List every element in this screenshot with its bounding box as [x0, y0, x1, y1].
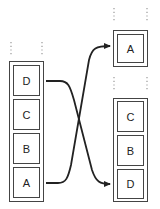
stack-reorder-diagram: D C B A A C: [0, 0, 160, 209]
left-stack-continuation-dots: [11, 42, 42, 55]
left-cell-c-label: C: [23, 109, 31, 121]
left-cell-a-label: A: [23, 177, 31, 189]
right-cell-a-label: A: [127, 43, 135, 55]
right-cell-c-label: C: [127, 111, 135, 123]
left-stack: D C B A: [10, 62, 44, 202]
right-cell-b: B: [118, 136, 144, 166]
left-cell-c: C: [14, 100, 40, 130]
right-cell-b-label: B: [127, 145, 134, 157]
right-top-box: A: [114, 31, 148, 67]
arrow-d-move: [46, 81, 110, 184]
right-cell-d: D: [118, 170, 144, 199]
right-cell-d-label: D: [127, 178, 135, 190]
left-cell-a: A: [14, 168, 40, 198]
right-top-continuation-dots: [114, 8, 147, 21]
right-stack: C B D: [114, 99, 148, 202]
right-stack-continuation-dots: [114, 77, 147, 90]
left-cell-d-label: D: [23, 75, 31, 87]
left-cell-d: D: [14, 66, 40, 96]
right-cell-a: A: [118, 35, 144, 63]
right-cell-c: C: [118, 102, 144, 132]
left-cell-b-label: B: [23, 143, 30, 155]
left-cell-b: B: [14, 134, 40, 164]
